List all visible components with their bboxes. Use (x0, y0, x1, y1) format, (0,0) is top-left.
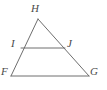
vertex-label-f: F (1, 66, 8, 77)
vertex-label-g: G (90, 66, 98, 77)
vertex-label-h: H (31, 3, 39, 14)
vertex-label-j: J (67, 38, 72, 49)
vertex-label-i: I (11, 38, 15, 49)
geometry-figure: H I J F G (0, 0, 107, 90)
